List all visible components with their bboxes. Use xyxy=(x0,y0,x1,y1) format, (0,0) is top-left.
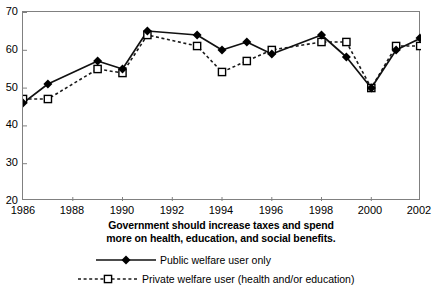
y-tick-label-70: 70 xyxy=(0,6,18,17)
chart-figure: 70 60 50 40 30 20 xyxy=(0,0,436,290)
x-tick-label-1990: 1990 xyxy=(105,204,139,216)
x-axis-labels: 1986 1988 1990 1992 1994 1996 1998 2000 … xyxy=(0,204,436,218)
chart-legend: Public welfare user only Private welfare… xyxy=(22,250,436,288)
series-public-line xyxy=(23,31,421,103)
plot-area xyxy=(22,11,420,200)
y-tick-label-50: 50 xyxy=(0,82,18,93)
y-tick-label-60: 60 xyxy=(0,44,18,55)
legend-swatch-dotted-square xyxy=(76,272,140,286)
y-axis-ticks xyxy=(23,13,27,164)
x-tick-label-1998: 1998 xyxy=(304,204,338,216)
x-tick-label-1996: 1996 xyxy=(254,204,288,216)
x-tick-label-1992: 1992 xyxy=(155,204,189,216)
x-tick-label-2000: 2000 xyxy=(353,204,387,216)
legend-swatch-solid-diamond xyxy=(94,253,158,267)
plot-canvas xyxy=(23,12,421,201)
legend-item-public: Public welfare user only xyxy=(22,250,436,269)
y-tick-label-40: 40 xyxy=(0,119,18,130)
caption-line-1: Government should increase taxes and spe… xyxy=(22,219,420,232)
chart-caption: Government should increase taxes and spe… xyxy=(22,219,420,245)
x-tick-label-1986: 1986 xyxy=(6,204,40,216)
legend-label-private: Private welfare user (health and/or educ… xyxy=(142,273,354,285)
caption-line-2: more on health, education, and social be… xyxy=(22,232,420,245)
x-tick-label-2002: 2002 xyxy=(402,204,436,216)
x-tick-label-1988: 1988 xyxy=(55,204,89,216)
x-tick-label-1994: 1994 xyxy=(204,204,238,216)
legend-label-public: Public welfare user only xyxy=(160,254,271,266)
y-tick-label-30: 30 xyxy=(0,157,18,168)
legend-item-private: Private welfare user (health and/or educ… xyxy=(22,269,436,288)
x-axis-ticks xyxy=(73,197,372,201)
